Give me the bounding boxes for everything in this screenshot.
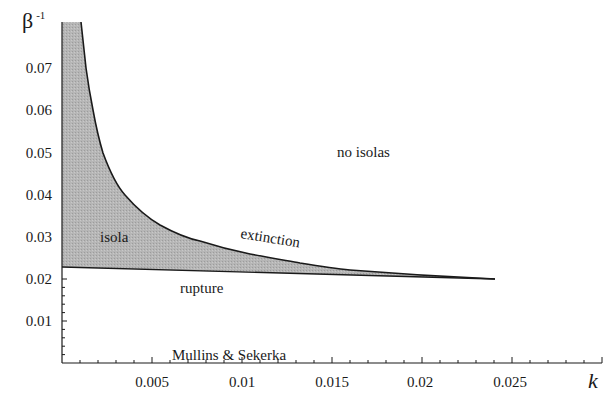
x-axis-label: k	[588, 368, 599, 393]
extinction-label: extinction	[240, 225, 302, 250]
no-isolas-label: no isolas	[337, 144, 390, 160]
y-axis-label: β-1	[22, 8, 45, 33]
y-tick-label: 0.04	[26, 187, 53, 203]
rupture-label: rupture	[180, 280, 224, 296]
isola-label: isola	[100, 229, 129, 245]
x-tick-label: 0.02	[407, 374, 433, 390]
x-tick-label: 0.015	[315, 374, 349, 390]
y-ticks	[62, 279, 67, 355]
x-ticks	[80, 357, 602, 363]
x-tick-label: 0.01	[229, 374, 255, 390]
y-tick-label: 0.03	[26, 229, 52, 245]
y-tick-label: 0.01	[26, 313, 52, 329]
y-tick-label: 0.06	[26, 102, 53, 118]
y-tick-labels: 0.07 0.06 0.05 0.04 0.03 0.02 0.01	[26, 60, 53, 329]
phase-diagram: 0.07 0.06 0.05 0.04 0.03 0.02 0.01 0.005…	[0, 0, 614, 402]
y-tick-label: 0.07	[26, 60, 53, 76]
x-tick-label: 0.025	[493, 374, 527, 390]
x-tick-labels: 0.005 0.01 0.015 0.02 0.025	[135, 374, 527, 390]
mullins-sekerka-label: Mullins & Sekerka	[172, 347, 286, 363]
y-axis-label-base: β	[22, 8, 33, 33]
y-tick-label: 0.05	[26, 145, 52, 161]
y-axis-label-sup: -1	[36, 9, 45, 21]
x-tick-label: 0.005	[135, 374, 169, 390]
y-tick-label: 0.02	[26, 271, 52, 287]
